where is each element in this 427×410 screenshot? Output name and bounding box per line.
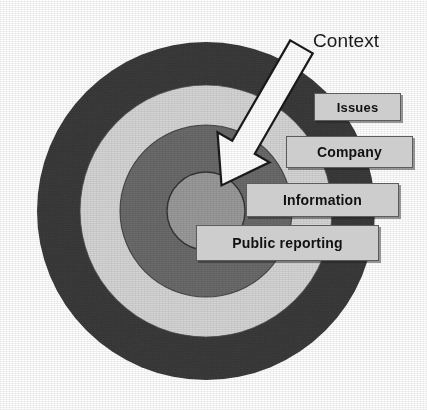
label-box-company-text: Company	[317, 145, 382, 159]
label-box-issues-text: Issues	[337, 100, 379, 113]
label-box-public-reporting: Public reporting	[196, 225, 379, 261]
label-box-information: Information	[246, 183, 399, 217]
context-label: Context	[313, 30, 379, 52]
label-box-public-reporting-text: Public reporting	[232, 236, 343, 250]
label-box-company: Company	[286, 136, 413, 168]
diagram-canvas: Context Issues Company Information Publi…	[0, 0, 427, 410]
label-box-information-text: Information	[283, 193, 362, 207]
label-box-issues: Issues	[314, 93, 401, 121]
